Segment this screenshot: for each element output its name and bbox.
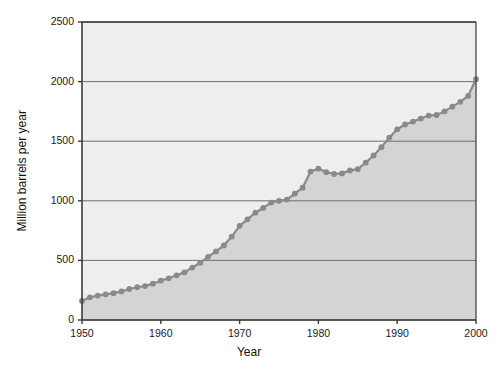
- data-point-marker: [386, 135, 392, 141]
- data-point-marker: [276, 198, 282, 204]
- data-point-marker: [182, 269, 188, 275]
- data-point-marker: [347, 168, 353, 174]
- data-point-marker: [284, 197, 290, 203]
- data-point-marker: [213, 249, 219, 255]
- chart-plot-area: [0, 0, 498, 369]
- data-point-marker: [126, 286, 132, 292]
- data-point-marker: [355, 166, 361, 172]
- data-point-marker: [111, 290, 117, 296]
- x-axis-tick-label: 1970: [218, 327, 262, 339]
- data-point-marker: [158, 278, 164, 284]
- y-axis-tick-label: 0: [30, 313, 74, 325]
- data-point-marker: [402, 122, 408, 128]
- data-point-marker: [252, 210, 258, 216]
- data-point-marker: [119, 288, 125, 294]
- data-point-marker: [103, 291, 109, 297]
- oil-production-chart: Million barrels per year Year 0500100015…: [0, 0, 498, 369]
- data-point-marker: [331, 171, 337, 177]
- data-point-marker: [221, 243, 227, 249]
- x-axis-title: Year: [0, 345, 498, 359]
- x-axis-tick-label: 1980: [296, 327, 340, 339]
- x-axis-tick-label: 1950: [60, 327, 104, 339]
- data-point-marker: [237, 223, 243, 229]
- data-point-marker: [205, 254, 211, 260]
- data-point-marker: [197, 260, 203, 266]
- data-point-marker: [379, 144, 385, 150]
- y-axis-tick-label: 500: [30, 253, 74, 265]
- data-point-marker: [426, 113, 432, 119]
- data-point-marker: [174, 272, 180, 278]
- data-point-marker: [434, 112, 440, 118]
- data-point-marker: [323, 169, 329, 175]
- data-point-marker: [229, 234, 235, 240]
- data-point-marker: [268, 200, 274, 206]
- data-point-marker: [410, 119, 416, 125]
- x-axis-tick-label: 2000: [454, 327, 498, 339]
- y-axis-tick-label: 2000: [30, 75, 74, 87]
- x-axis-tick-label: 1990: [375, 327, 419, 339]
- data-point-marker: [87, 294, 93, 300]
- data-point-marker: [394, 126, 400, 132]
- data-point-marker: [292, 191, 298, 197]
- data-point-marker: [371, 153, 377, 159]
- y-axis-tick-label: 1000: [30, 194, 74, 206]
- y-axis-tick-label: 2500: [30, 15, 74, 27]
- y-axis-tick-label: 1500: [30, 134, 74, 146]
- data-point-marker: [245, 216, 251, 222]
- data-point-marker: [465, 93, 471, 99]
- data-point-marker: [142, 283, 148, 289]
- y-axis-title: Million barrels per year: [15, 110, 29, 231]
- data-point-marker: [308, 169, 314, 175]
- data-point-marker: [457, 99, 463, 105]
- data-point-marker: [418, 116, 424, 122]
- data-point-marker: [442, 109, 448, 115]
- data-point-marker: [316, 166, 322, 172]
- data-point-marker: [300, 185, 306, 191]
- data-point-marker: [95, 293, 101, 299]
- x-axis-tick-label: 1960: [139, 327, 183, 339]
- data-point-marker: [166, 275, 172, 281]
- data-point-marker: [150, 281, 156, 287]
- data-point-marker: [134, 284, 140, 290]
- data-point-marker: [189, 265, 195, 271]
- data-point-marker: [449, 104, 455, 110]
- data-point-marker: [363, 160, 369, 166]
- data-point-marker: [260, 205, 266, 211]
- data-point-marker: [339, 170, 345, 176]
